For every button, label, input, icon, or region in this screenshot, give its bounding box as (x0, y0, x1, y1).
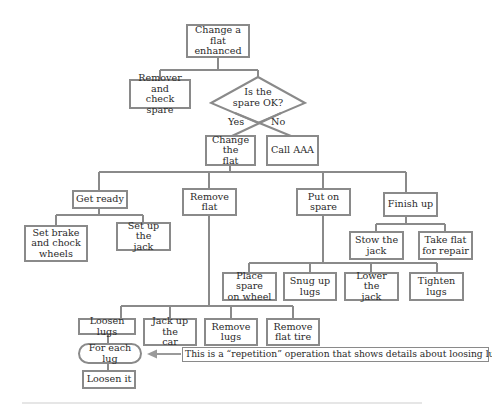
flowchart-diagram: Change a flat enhanced Remover and check… (0, 0, 492, 410)
step-remove-flat: Remove flat (182, 188, 237, 216)
set-brake-chock-wheels-node: Set brake and chock wheels (24, 225, 88, 262)
lower-the-jack-node: Lower the jack (344, 272, 399, 301)
root-node: Change a flat enhanced (186, 24, 250, 58)
jack-up-car-node: Jack up the car (143, 318, 197, 346)
remover-check-spare-node: Remover and check spare (129, 79, 191, 109)
yes-label: Yes (228, 116, 244, 127)
decision-spare-ok: Is the spare OK? (226, 87, 290, 108)
snug-up-lugs-node: Snug up lugs (283, 272, 337, 301)
step-finish-up: Finish up (383, 192, 438, 217)
change-the-flat-node: Change the flat (205, 135, 256, 166)
tighten-lugs-node: Tighten lugs (409, 272, 464, 301)
stow-jack-node: Stow the jack (349, 231, 404, 260)
place-spare-on-wheel-node: Place spare on wheel (222, 272, 277, 301)
no-label: No (271, 116, 285, 127)
for-each-lug-loop: For each lug (78, 343, 142, 364)
loosen-lugs-node: Loosen lugs (78, 318, 136, 335)
step-put-on-spare: Put on spare (296, 188, 351, 216)
set-up-jack-node: Set up the jack (116, 222, 171, 251)
call-aaa-node: Call AAA (266, 135, 319, 166)
clipped-caption (22, 402, 422, 404)
step-get-ready: Get ready (72, 190, 128, 209)
remove-lugs-node: Remove lugs (204, 318, 258, 346)
loosen-it-node: Loosen it (82, 370, 136, 389)
repetition-annotation: This is a “repetition” operation that sh… (182, 347, 489, 362)
remove-flat-tire-node: Remove flat tire (266, 318, 320, 346)
take-flat-for-repair-node: Take flat for repair (418, 231, 473, 260)
